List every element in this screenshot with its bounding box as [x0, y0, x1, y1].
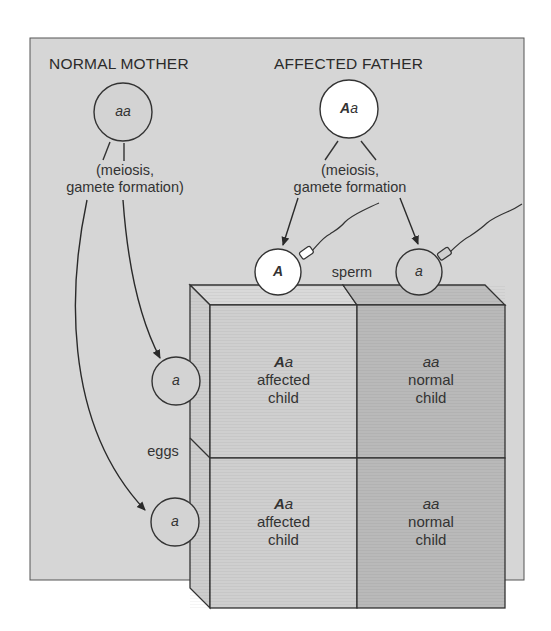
mother-genotype: aa — [103, 103, 143, 119]
father-process-line-2: gamete formation — [270, 179, 430, 196]
mother-process-line-2: gamete formation) — [40, 179, 210, 196]
sperm-A-allele: A — [258, 263, 298, 279]
egg-2-allele: a — [155, 513, 195, 529]
egg-1-allele: a — [156, 372, 196, 388]
cell-r0-c1-text: aa normal child — [357, 353, 505, 407]
father-genotype: Aa — [329, 100, 369, 116]
father-label: AFFECTED FATHER — [274, 55, 423, 73]
sperm-label: sperm — [322, 264, 382, 281]
mother-process-line-1: (meiosis, — [40, 162, 210, 179]
cell-r1-c0-text: Aa affected child — [210, 495, 357, 549]
father-process-line-1: (meiosis, — [270, 162, 430, 179]
sperm-a-allele: a — [399, 263, 439, 279]
mother-label: NORMAL MOTHER — [49, 55, 189, 73]
cell-r1-c1-text: aa normal child — [357, 495, 505, 549]
cell-r0-c0-text: Aa affected child — [210, 353, 357, 407]
eggs-label: eggs — [138, 443, 188, 460]
